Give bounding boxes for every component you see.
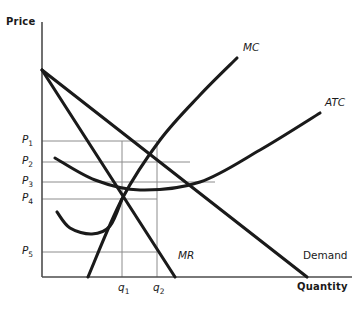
curve-label-atc: ATC bbox=[325, 96, 345, 108]
price-tick-index: 3 bbox=[28, 180, 33, 189]
curve-label-demand: Demand bbox=[303, 249, 348, 261]
curves-group bbox=[42, 58, 320, 277]
curve-mc bbox=[88, 58, 237, 277]
curve-label-mr: MR bbox=[178, 249, 194, 261]
price-tick-label-2: P2 bbox=[22, 154, 33, 169]
price-tick-index: 5 bbox=[28, 250, 33, 259]
diagram-svg bbox=[0, 0, 360, 315]
quantity-tick-symbol: q bbox=[153, 281, 160, 293]
quantity-tick-label-2: q2 bbox=[153, 281, 164, 296]
price-tick-label-3: P3 bbox=[22, 174, 33, 189]
quantity-tick-index: 2 bbox=[160, 287, 165, 296]
axes-group bbox=[42, 22, 352, 277]
price-tick-label-1: P1 bbox=[22, 133, 33, 148]
price-tick-index: 2 bbox=[28, 160, 33, 169]
quantity-tick-index: 1 bbox=[125, 287, 130, 296]
price-tick-index: 1 bbox=[28, 139, 33, 148]
diagram-canvas: Price Quantity P1P2P3P4P5q1q2 MCATCMRDem… bbox=[0, 0, 360, 315]
quantity-tick-symbol: q bbox=[118, 281, 125, 293]
price-tick-label-5: P5 bbox=[22, 244, 33, 259]
quantity-tick-label-1: q1 bbox=[118, 281, 129, 296]
price-tick-index: 4 bbox=[28, 197, 33, 206]
curve-mr bbox=[42, 70, 175, 277]
curve-label-mc: MC bbox=[243, 41, 259, 53]
x-axis-title: Quantity bbox=[297, 281, 348, 292]
price-tick-label-4: P4 bbox=[22, 191, 33, 206]
y-axis-title: Price bbox=[6, 16, 35, 27]
